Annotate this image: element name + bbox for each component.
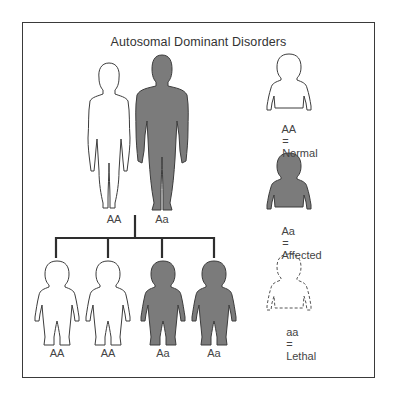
legend-lethal: aa = Lethal [280,314,316,362]
parent-female-normal-figure [88,63,130,208]
child-1-normal-figure [35,261,79,345]
child-2-genotype: AA [88,347,128,359]
legend-affected: Aa = Affected [276,213,322,261]
legend-normal-equals: = [282,135,288,147]
legend-normal-genotype: AA [282,123,297,135]
legend-lethal-meaning: Lethal [286,350,316,362]
legend-lethal-equals: = [286,338,292,350]
legend-affected-meaning: Affected [282,249,322,261]
legend-normal: AA = Normal [276,111,318,159]
parent-male-genotype: Aa [142,213,182,225]
legend-affected-figure [267,153,311,209]
parent-male-affected-figure [136,55,189,210]
legend-affected-equals: = [282,237,288,249]
legend-normal-meaning: Normal [282,147,317,159]
legend-affected-genotype: Aa [282,225,295,237]
legend-lethal-genotype: aa [286,326,298,338]
child-1-genotype: AA [37,347,77,359]
child-4-genotype: Aa [194,347,234,359]
legend-lethal-figure [267,254,311,310]
child-2-normal-figure [86,261,130,345]
child-3-genotype: Aa [143,347,183,359]
child-3-affected-figure [141,261,185,345]
child-4-affected-figure [192,261,236,345]
legend-normal-figure [267,54,311,110]
pedigree-connector [55,215,215,258]
parent-female-genotype: AA [94,213,134,225]
pedigree-artwork [0,0,397,397]
